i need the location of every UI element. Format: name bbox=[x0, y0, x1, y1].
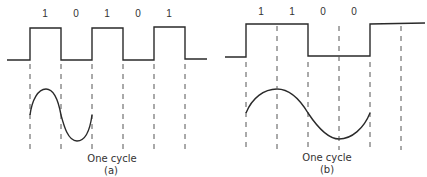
panel-label-a: (a) bbox=[104, 165, 118, 176]
digital-signal-a bbox=[7, 27, 207, 60]
bit-label: 0 bbox=[73, 8, 79, 19]
panel-b: 1 1 0 0 One cycle (b) bbox=[225, 6, 425, 175]
bit-label: 1 bbox=[289, 6, 295, 17]
bit-label: 0 bbox=[135, 8, 141, 19]
bit-label: 1 bbox=[166, 8, 172, 19]
digital-signal-b bbox=[225, 23, 425, 57]
bit-label: 1 bbox=[258, 6, 264, 17]
bit-label: 0 bbox=[351, 6, 357, 17]
diagram-canvas: 1 0 1 0 1 One cycle (a) 1 1 0 0 One cycl… bbox=[0, 0, 427, 177]
cycle-caption-b: One cycle bbox=[302, 152, 351, 163]
cycle-caption-a: One cycle bbox=[87, 153, 136, 164]
dashed-guides-a bbox=[30, 64, 185, 152]
panel-a: 1 0 1 0 1 One cycle (a) bbox=[7, 8, 207, 176]
bit-label: 1 bbox=[104, 8, 110, 19]
bit-label: 1 bbox=[42, 8, 48, 19]
bit-label: 0 bbox=[320, 6, 326, 17]
panel-label-b: (b) bbox=[320, 164, 334, 175]
